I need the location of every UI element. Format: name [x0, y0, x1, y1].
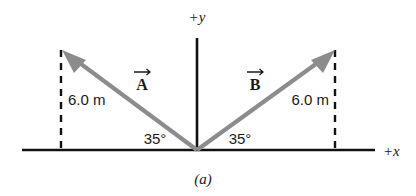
vector-a-label-group: A: [134, 69, 150, 93]
vector-a-overbar-arrow: [134, 69, 150, 75]
vector-a-arrowhead: [62, 50, 86, 73]
vector-b-overbar-arrow: [247, 69, 263, 75]
vector-b-label-group: B: [247, 69, 263, 93]
magnitude-label-a: 6.0 m: [68, 91, 106, 108]
vector-b-arrowhead: [311, 50, 335, 73]
vector-b-label: B: [250, 76, 261, 93]
y-axis-label: +y: [189, 9, 206, 25]
vector-a-label: A: [136, 76, 148, 93]
vector-diagram-figure: +y +x A B 6.0 m 6.0 m 35° 35° (a): [0, 0, 416, 196]
angle-label-a: 35°: [144, 130, 167, 147]
x-axis-label: +x: [383, 143, 400, 159]
angle-label-b: 35°: [229, 130, 252, 147]
vector-diagram-canvas: +y +x A B 6.0 m 6.0 m 35° 35° (a): [0, 0, 416, 196]
figure-caption: (a): [194, 171, 212, 188]
magnitude-label-b: 6.0 m: [291, 91, 329, 108]
